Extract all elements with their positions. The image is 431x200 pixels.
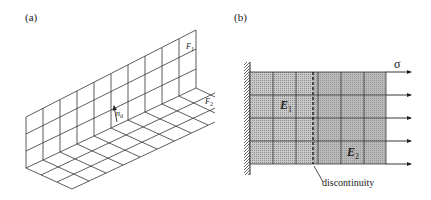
discontinuity-annotation: discontinuity bbox=[322, 178, 374, 188]
e2-symbol: E bbox=[347, 145, 355, 159]
face-f2-label: F2 bbox=[205, 98, 213, 107]
e1-subscript: 1 bbox=[288, 105, 292, 114]
face-f1-label: F1 bbox=[186, 43, 194, 52]
normal-subscript: d bbox=[120, 113, 123, 119]
face-f1-subscript: 1 bbox=[191, 46, 194, 52]
e1-symbol: E bbox=[280, 98, 288, 112]
stress-sigma-label: σ bbox=[394, 58, 400, 70]
panel-a-label: (a) bbox=[25, 12, 37, 23]
floor-face-f2 bbox=[26, 88, 215, 189]
region-e2-label: E2 bbox=[347, 146, 359, 161]
figure-canvas bbox=[0, 0, 431, 200]
bimaterial-plate bbox=[244, 62, 411, 182]
e2-subscript: 2 bbox=[355, 152, 359, 161]
panel-b-label: (b) bbox=[234, 12, 247, 23]
wall-face-f1 bbox=[26, 30, 196, 168]
face-f2-subscript: 2 bbox=[210, 101, 213, 107]
fixed-support bbox=[244, 62, 250, 175]
normal-nd-label: nd bbox=[116, 110, 123, 119]
region-e1-label: E1 bbox=[280, 99, 292, 114]
stress-arrows bbox=[386, 72, 411, 164]
